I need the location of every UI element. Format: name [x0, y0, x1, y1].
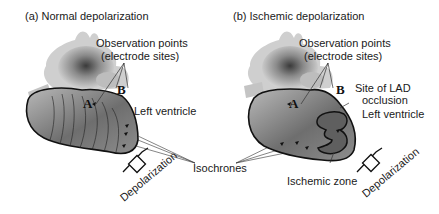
panel-a-observation-points-label: Observation points	[96, 37, 188, 49]
panel-b-site-of-lad-label: Site of LAD	[355, 82, 411, 94]
panel-a-title: (a) Normal depolarization	[25, 10, 149, 22]
panel-a-point-a: A	[83, 96, 93, 111]
panel-b-title: (b) Ischemic depolarization	[233, 10, 364, 22]
heart-depolarization-figure: (a) Normal depolarization	[0, 0, 439, 214]
panel-b-point-b: B	[336, 82, 345, 97]
isochrones-label: Isochrones	[193, 162, 247, 174]
panel-b-observation-points-label: Observation points	[299, 37, 391, 49]
panel-b: (b) Ischemic depolarization Observation …	[233, 10, 424, 200]
panel-a-depolarization-label: Depolarization	[118, 149, 180, 203]
panel-a-point-b: B	[117, 82, 126, 97]
panel-b-left-ventricle-label: Left ventricle	[362, 108, 424, 120]
panel-b-occlusion-label: occlusion	[362, 94, 408, 106]
panel-a: (a) Normal depolarization	[25, 10, 196, 204]
panel-b-electrode-sites-label: (electrode sites)	[304, 50, 382, 62]
panel-a-left-ventricle-label: Left ventricle	[134, 105, 196, 117]
panel-b-depolarization-arrow	[357, 148, 382, 172]
panel-b-point-a: A	[289, 96, 299, 111]
panel-b-ischemic-zone-label: Ischemic zone	[287, 175, 357, 187]
panel-a-electrode-sites-label: (electrode sites)	[101, 50, 179, 62]
panel-b-depolarization-label: Depolarization	[360, 145, 422, 199]
